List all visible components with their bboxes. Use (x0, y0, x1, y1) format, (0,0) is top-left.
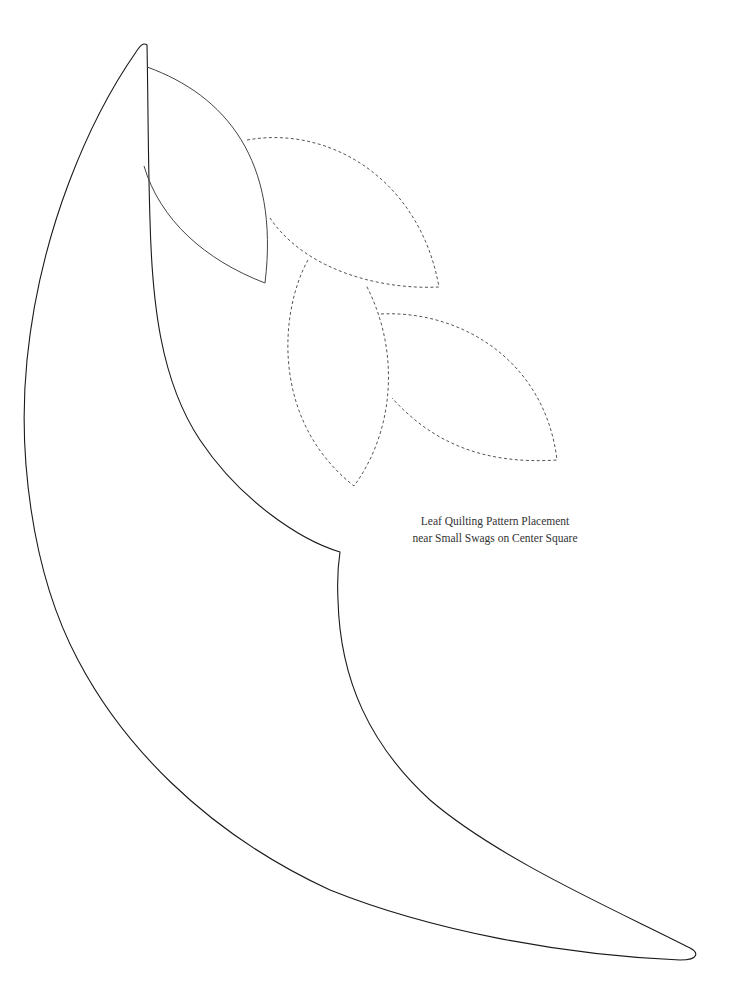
pattern-caption: Leaf Quilting Pattern Placement near Sma… (370, 513, 620, 547)
leaf-dashed-1 (247, 138, 439, 288)
caption-line-1: Leaf Quilting Pattern Placement (370, 513, 620, 530)
swag-outline (24, 44, 695, 960)
leaf-dashed-2 (288, 260, 389, 486)
leaf-solid (144, 67, 267, 283)
caption-line-2: near Small Swags on Center Square (370, 530, 620, 547)
leaf-dashed-3 (381, 314, 557, 461)
quilting-pattern-drawing (0, 0, 731, 1005)
pattern-page: Leaf Quilting Pattern Placement near Sma… (0, 0, 731, 1005)
